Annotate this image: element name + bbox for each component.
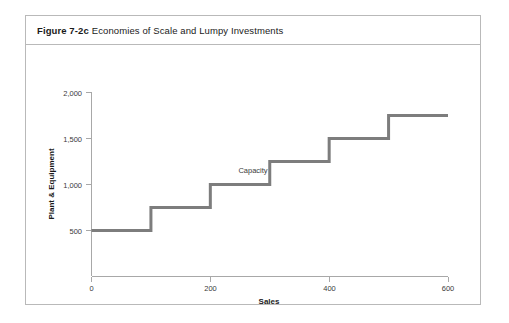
x-tick-label-400: 400 <box>323 284 336 293</box>
step-data-series <box>92 116 449 231</box>
x-tick-label-200: 200 <box>204 284 217 293</box>
capacity-annotation: Capacity <box>238 166 267 175</box>
figure-title: Economies of Scale and Lumpy Investments <box>92 25 283 36</box>
figure-container: Figure 7-2c Economies of Scale and Lumpy… <box>25 15 481 305</box>
y-tick-label-2000: 2,000 <box>63 89 82 98</box>
x-tick-label-600: 600 <box>442 284 455 293</box>
y-tick-label-1000: 1,000 <box>63 181 82 190</box>
step-chart: 2,000 1,500 1,000 500 0 200 400 600 Capa… <box>26 45 482 305</box>
y-tick-label-500: 500 <box>69 227 82 236</box>
chart-plot-area: 2,000 1,500 1,000 500 0 200 400 600 Capa… <box>26 45 482 305</box>
figure-number: Figure 7-2c <box>37 25 89 36</box>
x-axis-title: Sales <box>259 297 280 305</box>
x-tick-label-0: 0 <box>89 284 93 293</box>
y-axis-title: Plant & Equipment <box>47 148 56 219</box>
figure-caption: Figure 7-2c Economies of Scale and Lumpy… <box>26 16 480 45</box>
y-tick-label-1500: 1,500 <box>63 135 82 144</box>
